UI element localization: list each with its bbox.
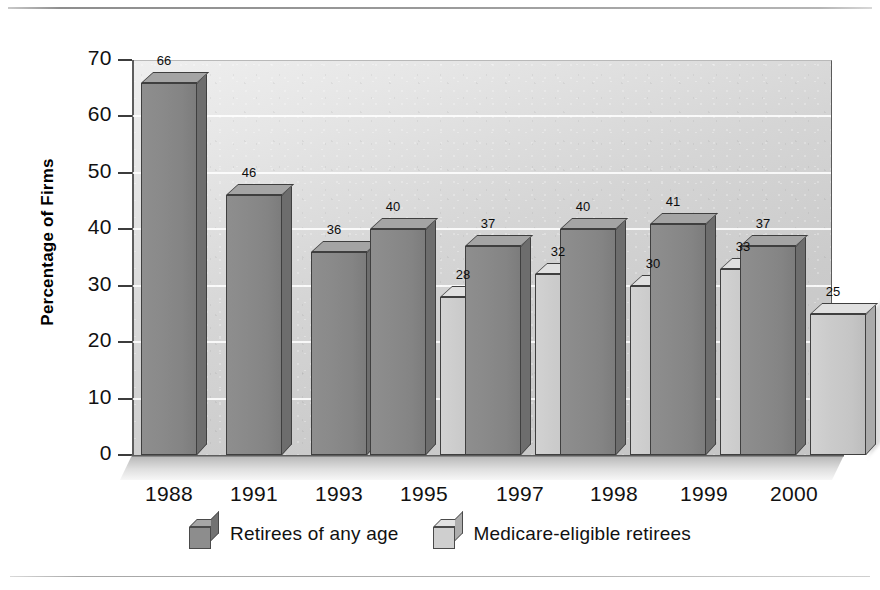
y-axis-tick [118, 285, 132, 287]
y-axis-tick-label: 20 [68, 328, 112, 352]
bar-2000-any-age [740, 246, 796, 455]
value-label: 33 [704, 239, 782, 254]
cube-dark-icon [189, 519, 219, 549]
y-axis-tick-label: 40 [68, 215, 112, 239]
bar-1995-any-age [370, 229, 426, 455]
bar-1991-any-age [226, 195, 282, 455]
y-axis-tick [118, 115, 132, 117]
legend-label: Retirees of any age [230, 523, 399, 545]
value-label: 40 [354, 199, 432, 214]
value-label: 40 [544, 199, 622, 214]
bottom-divider-rule [10, 576, 870, 577]
chart-legend: Retirees of any age Medicare-eligible re… [0, 519, 880, 549]
value-label: 25 [794, 284, 872, 299]
legend-item-medicare-eligible-retirees[interactable]: Medicare-eligible retirees [433, 519, 691, 549]
y-axis-tick [118, 172, 132, 174]
y-axis-tick-label: 30 [68, 272, 112, 296]
y-axis-tick [118, 341, 132, 343]
value-label: 41 [634, 194, 712, 209]
y-axis-tick-label: 0 [68, 441, 112, 465]
cube-light-icon [433, 519, 463, 549]
bar-1998-any-age [560, 229, 616, 455]
y-axis-tick [118, 228, 132, 230]
y-axis-tick-label: 70 [68, 46, 112, 70]
value-label: 36 [295, 222, 373, 237]
y-axis-tick-label: 60 [68, 102, 112, 126]
chart-floor-3d [120, 455, 844, 481]
y-axis-tick [118, 398, 132, 400]
bar-1993-any-age [311, 252, 367, 455]
gridline [133, 115, 831, 117]
legend-label: Medicare-eligible retirees [474, 523, 691, 545]
y-axis-tick-label: 50 [68, 159, 112, 183]
value-label: 46 [210, 165, 288, 180]
y-axis-title: Percentage of Firms [38, 132, 58, 352]
x-axis-label-2000: 2000 [736, 482, 852, 506]
legend-item-retirees-any-age[interactable]: Retirees of any age [189, 519, 399, 549]
y-axis-tick-label: 10 [68, 385, 112, 409]
value-label: 28 [424, 267, 502, 282]
value-label: 30 [614, 256, 692, 271]
value-label: 32 [519, 244, 597, 259]
value-label: 37 [724, 216, 802, 231]
chart-figure: Percentage of Firms 010203040506070 6646… [0, 0, 880, 590]
top-divider-rule [8, 7, 872, 9]
bar-1988-any-age [141, 83, 197, 455]
value-label: 66 [125, 53, 203, 68]
bar-2000-medicare [810, 314, 866, 455]
value-label: 37 [449, 216, 527, 231]
